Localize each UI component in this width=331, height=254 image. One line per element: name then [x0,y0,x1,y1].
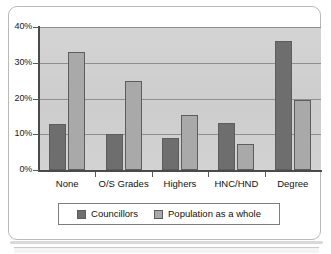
x-axis-label-highers: Highers [152,178,208,189]
legend-item-population-as-a-whole: Population as a whole [154,209,261,219]
x-axis-line [38,170,322,172]
bar-o-s-grades-councillors [106,134,123,170]
x-axis-label-degree: Degree [265,178,321,189]
y-axis-tick [33,27,39,28]
gridline [39,27,321,28]
bar-chart: 0%10%20%30%40% NoneO/S GradesHighersHNC/… [9,7,322,241]
bar-o-s-grades-population-as-a-whole [125,81,142,170]
legend-swatch-icon [154,210,163,219]
x-axis-tick [265,172,266,177]
y-axis-tick [33,99,39,100]
bar-highers-councillors [162,138,179,170]
plot-area [39,27,321,170]
page-bottom-strip [14,247,319,253]
legend-label: Councillors [91,209,138,219]
bar-degree-population-as-a-whole [294,100,311,170]
y-axis-tick-label: 40% [6,22,32,31]
y-axis-labels: 0%10%20%30%40% [9,7,32,190]
x-axis-tick [152,172,153,177]
x-axis-tick [208,172,209,177]
legend-label: Population as a whole [168,209,261,219]
chart-frame: 0%10%20%30%40% NoneO/S GradesHighersHNC/… [8,6,321,240]
x-axis-label-o-s-grades: O/S Grades [95,178,151,189]
bar-none-councillors [49,124,66,170]
y-axis-tick-label: 20% [6,94,32,103]
legend-swatch-icon [77,210,86,219]
bar-hnc-hnd-population-as-a-whole [237,144,254,170]
bar-highers-population-as-a-whole [181,115,198,170]
chart-legend: CouncillorsPopulation as a whole [58,203,280,225]
y-axis-tick [33,63,39,64]
x-axis-label-none: None [39,178,95,189]
x-axis-label-hnc-hnd: HNC/HND [208,178,264,189]
frame-shadow [10,241,323,244]
y-axis-tick [33,170,39,171]
bar-none-population-as-a-whole [68,52,85,170]
y-axis-tick-label: 30% [6,58,32,67]
y-axis-tick [33,134,39,135]
bar-hnc-hnd-councillors [218,123,235,170]
x-axis-tick [95,172,96,177]
y-axis-tick-label: 10% [6,129,32,138]
legend-item-councillors: Councillors [77,209,138,219]
bar-degree-councillors [275,41,292,170]
y-axis-tick-label: 0% [6,165,32,174]
